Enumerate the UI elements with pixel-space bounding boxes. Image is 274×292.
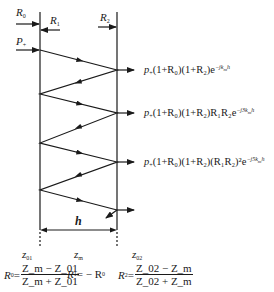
impedance-zm: zm (74, 249, 83, 261)
output-expression-3: p+(1+R₀)(1+R₂)(R₁R₂)²e−j5kmh (144, 156, 264, 168)
output-expression-2: p+(1+R₀)(1+R₂)R₁R₂e−j3kmh (144, 107, 254, 119)
formula-r1: R1= − R0 (67, 268, 105, 280)
label-r2: R2 (100, 12, 110, 24)
impedance-z01: z01 (22, 249, 32, 261)
thickness-label: h (75, 215, 82, 227)
formula-r2: R2= Z_02 − Z_m Z_02 + Z_m (118, 262, 193, 287)
impedance-z02: z02 (132, 249, 142, 261)
label-r0: R0 (16, 7, 26, 19)
label-r1: R1 (50, 15, 60, 27)
output-expression-1: p+(1+R₀)(1+R₂)e−jkmh (144, 64, 230, 76)
label-p-plus: P+ (16, 36, 26, 48)
